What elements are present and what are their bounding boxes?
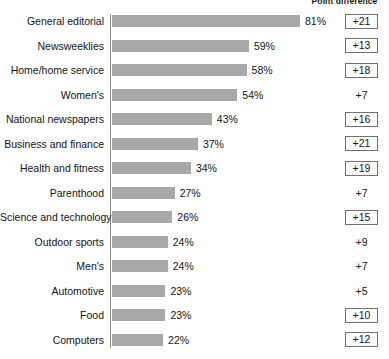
bar-value-label: 24% [173,236,194,248]
bar-value-label: 23% [170,285,191,297]
chart-row: Parenthood27%+7 [0,186,389,211]
delta-badge-boxed: +15 [345,210,379,225]
bar-group: 59% [112,40,275,52]
bar-group: 24% [112,260,194,272]
delta-cell: +7 [334,186,389,200]
bar [112,309,165,321]
category-label: Outdoor sports [0,236,104,248]
bar [112,64,247,76]
category-label: Science and technology [0,211,104,223]
bar [112,187,175,199]
delta-cell: +15 [334,210,389,224]
bar-group: 23% [112,285,191,297]
bar-value-label: 43% [217,113,238,125]
category-label: General editorial [0,15,104,27]
delta-badge-boxed: +19 [345,161,379,176]
bar-value-label: 59% [254,40,275,52]
delta-cell: +21 [334,137,389,151]
bar-group: 22% [112,334,189,346]
bar [112,236,168,248]
delta-cell: +7 [334,259,389,273]
bar-value-label: 58% [252,64,273,76]
bar-value-label: 37% [203,138,224,150]
bar-value-label: 22% [168,334,189,346]
bar [112,260,168,272]
bar-value-label: 26% [177,211,198,223]
delta-cell: +13 [334,39,389,53]
bar-value-label: 23% [170,309,191,321]
delta-badge-boxed: +13 [345,38,379,53]
delta-badge-boxed: +10 [345,308,379,323]
delta-badge-plain: +7 [349,186,375,200]
chart-row: Food23%+10 [0,308,389,333]
chart-row: Men's24%+7 [0,259,389,284]
category-label: Newsweeklies [0,40,104,52]
bar-group: 43% [112,113,238,125]
bar-group: 24% [112,236,194,248]
bar [112,334,163,346]
chart-row: Newsweeklies59%+13 [0,39,389,64]
chart-row: Automotive23%+5 [0,284,389,309]
bar [112,162,191,174]
bar-value-label: 54% [242,89,263,101]
bar [112,113,212,125]
delta-badge-plain: +7 [349,259,375,273]
bar-group: 27% [112,187,201,199]
delta-cell: +9 [334,235,389,249]
chart-row: Science and technology26%+15 [0,210,389,235]
bar [112,89,237,101]
chart-row: General editorial81%+21 [0,14,389,39]
chart-row: Home/home service58%+18 [0,63,389,88]
chart-row: Computers22%+12 [0,333,389,358]
category-label: Men's [0,260,104,272]
category-label: National newspapers [0,113,104,125]
bar-group: 34% [112,162,217,174]
bar-group: 26% [112,211,198,223]
bar [112,15,300,27]
delta-cell: +5 [334,284,389,298]
delta-cell: +18 [334,63,389,77]
chart-row: Business and finance37%+21 [0,137,389,162]
chart-row: Health and fitness34%+19 [0,161,389,186]
bar-group: 81% [112,15,326,27]
delta-cell: +19 [334,161,389,175]
chart-row: National newspapers43%+16 [0,112,389,137]
bar [112,138,198,150]
delta-cell: +16 [334,112,389,126]
bar-group: 54% [112,89,263,101]
delta-cell: +21 [334,14,389,28]
category-label: Business and finance [0,138,104,150]
category-label: Health and fitness [0,162,104,174]
delta-badge-plain: +5 [349,284,375,298]
delta-badge-boxed: +21 [345,136,379,151]
bar-group: 23% [112,309,191,321]
delta-cell: +12 [334,333,389,347]
delta-cell: +10 [334,308,389,322]
bar-value-label: 24% [173,260,194,272]
category-label: Women's [0,89,104,101]
category-label: Computers [0,334,104,346]
category-label: Parenthood [0,187,104,199]
bar [112,40,249,52]
bar-value-label: 27% [180,187,201,199]
bar [112,211,172,223]
delta-badge-boxed: +16 [345,112,379,127]
bar-value-label: 81% [305,15,326,27]
chart-row: Outdoor sports24%+9 [0,235,389,260]
bar-chart: Point difference General editorial81%+21… [0,0,389,359]
delta-badge-plain: +9 [349,235,375,249]
chart-rows: General editorial81%+21Newsweeklies59%+1… [0,14,389,357]
chart-row: Women's54%+7 [0,88,389,113]
delta-badge-boxed: +21 [345,14,379,29]
bar-value-label: 34% [196,162,217,174]
category-label: Food [0,309,104,321]
delta-badge-boxed: +18 [345,63,379,78]
bar [112,285,165,297]
bar-group: 37% [112,138,224,150]
delta-column-header: Point difference [300,0,389,5]
category-label: Automotive [0,285,104,297]
delta-badge-plain: +7 [349,88,375,102]
delta-badge-boxed: +12 [345,332,379,347]
delta-cell: +7 [334,88,389,102]
bar-group: 58% [112,64,273,76]
